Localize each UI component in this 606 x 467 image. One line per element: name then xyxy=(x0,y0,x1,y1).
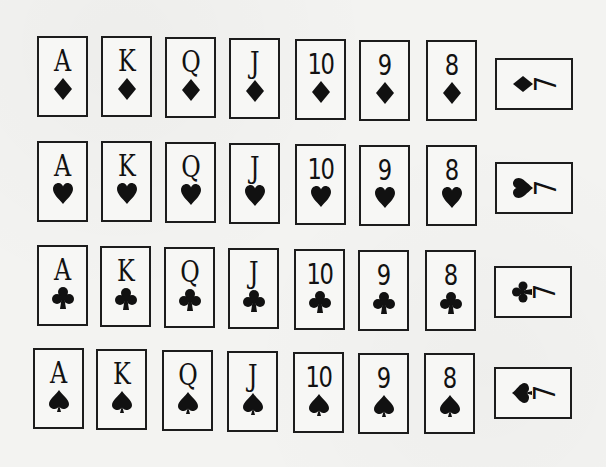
card-ace-of-diamonds: A xyxy=(37,36,88,117)
diamond-icon xyxy=(441,81,463,105)
card-nine-of-clubs: 9 xyxy=(358,250,409,331)
card-rank: 10 xyxy=(308,152,334,184)
card-rank: A xyxy=(54,149,71,181)
card-queen-of-diamonds: Q xyxy=(165,37,216,118)
card-rank: 7 xyxy=(531,180,561,196)
card-rank: 7 xyxy=(530,385,560,401)
spade-icon xyxy=(242,392,264,416)
spade-icon xyxy=(111,390,133,414)
card-rank: A xyxy=(54,253,71,285)
heart-icon xyxy=(374,186,396,210)
card-king-of-hearts: K xyxy=(101,141,152,222)
card-ten-of-diamonds: 10 xyxy=(295,39,346,120)
club-icon xyxy=(115,287,137,311)
card-seven-of-clubs-rotated: 7 xyxy=(494,266,572,318)
card-rank: K xyxy=(118,149,136,181)
card-ten-of-spades: 10 xyxy=(293,352,344,433)
spade-icon xyxy=(373,394,395,418)
club-icon xyxy=(440,291,462,315)
diamond-icon xyxy=(310,80,332,104)
card-rank: Q xyxy=(180,255,200,287)
card-rank: J xyxy=(249,256,259,288)
card-ten-of-clubs: 10 xyxy=(294,249,345,330)
heart-icon xyxy=(180,183,202,207)
card-rank: K xyxy=(113,357,131,389)
card-eight-of-spades: 8 xyxy=(424,353,475,434)
club-icon xyxy=(309,290,331,314)
heart-icon xyxy=(116,182,138,206)
card-rank: 8 xyxy=(445,48,458,80)
card-rank: K xyxy=(118,44,136,76)
diamond-icon xyxy=(180,78,202,102)
heart-icon xyxy=(244,184,266,208)
heart-icon xyxy=(52,182,74,206)
card-nine-of-spades: 9 xyxy=(358,353,409,434)
card-rank: 10 xyxy=(308,47,334,79)
scanned-page: A K Q J 10 9 8 7 xyxy=(0,0,606,467)
card-rank: 9 xyxy=(377,258,390,290)
card-rank: 8 xyxy=(443,361,456,393)
heart-icon xyxy=(441,186,463,210)
diamond-icon xyxy=(52,77,74,101)
card-king-of-diamonds: K xyxy=(101,36,152,117)
card-seven-of-diamonds-rotated: 7 xyxy=(495,58,573,110)
card-king-of-spades: K xyxy=(96,349,147,430)
club-icon xyxy=(243,289,265,313)
card-jack-of-diamonds: J xyxy=(229,38,280,119)
card-ace-of-hearts: A xyxy=(37,141,88,222)
card-rank: K xyxy=(117,254,135,286)
card-rank: J xyxy=(248,359,258,391)
card-ace-of-spades: A xyxy=(33,348,84,429)
spade-icon xyxy=(439,394,461,418)
card-rank: 9 xyxy=(377,361,390,393)
club-icon xyxy=(373,291,395,315)
diamond-icon xyxy=(374,81,396,105)
diamond-icon xyxy=(116,77,138,101)
diamond-icon xyxy=(244,79,266,103)
card-rank: 10 xyxy=(307,257,333,289)
heart-icon xyxy=(310,185,332,209)
card-rank: Q xyxy=(178,358,198,390)
card-rank: 7 xyxy=(530,284,560,300)
card-nine-of-diamonds: 9 xyxy=(359,40,410,121)
spade-icon xyxy=(48,389,70,413)
card-rank: 8 xyxy=(444,258,457,290)
card-rank: J xyxy=(250,46,260,78)
card-rank: A xyxy=(50,356,67,388)
card-rank: 9 xyxy=(378,153,391,185)
card-ten-of-hearts: 10 xyxy=(295,144,346,225)
card-seven-of-spades-rotated: 7 xyxy=(494,367,572,419)
card-jack-of-spades: J xyxy=(227,351,278,432)
card-rank: Q xyxy=(181,45,201,77)
card-jack-of-hearts: J xyxy=(229,143,280,224)
card-jack-of-clubs: J xyxy=(228,248,279,329)
card-rank: 9 xyxy=(378,48,391,80)
club-icon xyxy=(52,286,74,310)
card-queen-of-clubs: Q xyxy=(164,247,215,328)
club-icon xyxy=(179,288,201,312)
card-rank: A xyxy=(54,44,71,76)
card-queen-of-spades: Q xyxy=(162,350,213,431)
spade-icon xyxy=(308,393,330,417)
card-rank: Q xyxy=(181,150,201,182)
card-nine-of-hearts: 9 xyxy=(359,145,410,226)
card-seven-of-hearts-rotated: 7 xyxy=(495,162,573,214)
card-eight-of-diamonds: 8 xyxy=(426,40,477,121)
card-rank: J xyxy=(250,151,260,183)
card-rank: 10 xyxy=(306,360,332,392)
spade-icon xyxy=(177,391,199,415)
card-eight-of-clubs: 8 xyxy=(425,250,476,331)
card-ace-of-clubs: A xyxy=(37,245,88,326)
card-queen-of-hearts: Q xyxy=(165,142,216,223)
card-eight-of-hearts: 8 xyxy=(426,145,477,226)
card-king-of-clubs: K xyxy=(100,246,151,327)
card-rank: 7 xyxy=(531,76,561,92)
card-rank: 8 xyxy=(445,153,458,185)
